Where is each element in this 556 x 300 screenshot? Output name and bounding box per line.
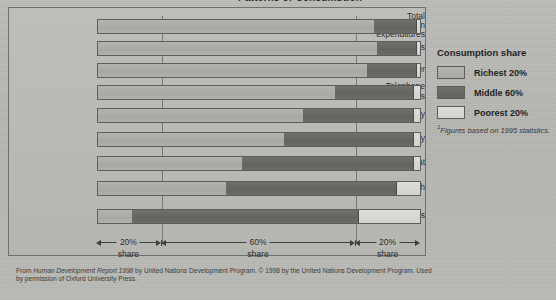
footnote: 1Figures based on 1995 statistics. xyxy=(437,123,555,135)
legend-item-label: Richest 20% xyxy=(474,68,527,78)
middle-segment xyxy=(336,86,413,99)
axis-span-share-label: share xyxy=(96,249,161,259)
stacked-bar xyxy=(97,108,421,123)
source-report-title: Human Development Report 1998 xyxy=(33,267,133,274)
axis-span-percent: 60% xyxy=(246,238,269,247)
figure-page: Patterns of Consumption Totalconsumption… xyxy=(0,0,556,300)
axis-span: 20% xyxy=(355,237,420,248)
poorest-segment xyxy=(359,210,420,223)
stacked-bar xyxy=(97,41,421,56)
legend-swatch-richest xyxy=(437,66,465,79)
stacked-bar xyxy=(97,19,421,34)
legend-item: Richest 20% xyxy=(437,66,552,79)
axis-span: 20% xyxy=(96,237,161,248)
middle-segment xyxy=(133,210,358,223)
middle-segment xyxy=(378,42,417,55)
axis-annotations: 20%share60%share20%share xyxy=(8,237,426,263)
axis-span: 60% xyxy=(161,237,355,248)
stacked-bar xyxy=(97,181,421,196)
axis-span-share-label: share xyxy=(355,249,420,259)
poorest-segment xyxy=(417,42,420,55)
source-citation: From Human Development Report 1998 by Un… xyxy=(16,267,436,284)
legend-swatch-middle xyxy=(437,86,465,99)
middle-segment xyxy=(375,20,417,33)
richest-segment xyxy=(98,109,304,122)
poorest-segment xyxy=(414,157,420,170)
stacked-bar xyxy=(97,209,421,224)
source-prefix: From xyxy=(16,267,33,274)
legend-items: Richest 20%Middle 60%Poorest 20% xyxy=(437,66,552,119)
middle-segment xyxy=(227,182,398,195)
stacked-bar xyxy=(97,85,421,100)
footnote-text: Figures based on 1995 statistics. xyxy=(440,126,550,135)
legend-swatch-poorest xyxy=(437,106,465,119)
middle-segment xyxy=(243,157,414,170)
source-line2: of Oxford University Press. xyxy=(59,275,137,282)
poorest-segment xyxy=(414,109,420,122)
middle-segment xyxy=(285,133,414,146)
axis-span-share-label: share xyxy=(161,249,355,259)
richest-segment xyxy=(98,182,227,195)
figure-title: Patterns of Consumption xyxy=(150,0,450,1)
poorest-segment xyxy=(397,182,420,195)
richest-segment xyxy=(98,157,243,170)
axis-arrow-left-icon xyxy=(96,240,101,246)
chart-plot-frame: TotalconsumptionexpendituresCarsPaperTel… xyxy=(8,7,426,256)
axis-tick xyxy=(161,240,162,246)
richest-segment xyxy=(98,133,285,146)
poorest-segment xyxy=(414,133,420,146)
richest-segment xyxy=(98,64,368,77)
middle-segment xyxy=(304,109,413,122)
axis-span-percent: 20% xyxy=(376,238,399,247)
legend-item: Poorest 20% xyxy=(437,106,552,119)
poorest-segment xyxy=(417,20,420,33)
richest-segment xyxy=(98,210,133,223)
legend-item: Middle 60% xyxy=(437,86,552,99)
richest-segment xyxy=(98,42,378,55)
richest-segment xyxy=(98,86,336,99)
legend: Consumption share Richest 20%Middle 60%P… xyxy=(437,47,552,126)
axis-tick xyxy=(355,240,356,246)
axis-arrow-right-icon xyxy=(415,240,420,246)
poorest-segment xyxy=(414,86,420,99)
legend-item-label: Poorest 20% xyxy=(474,108,528,118)
richest-segment xyxy=(98,20,375,33)
middle-segment xyxy=(368,64,416,77)
poorest-segment xyxy=(417,64,420,77)
stacked-bar xyxy=(97,132,421,147)
legend-title: Consumption share xyxy=(437,47,552,58)
axis-span-percent: 20% xyxy=(117,238,140,247)
legend-item-label: Middle 60% xyxy=(474,88,523,98)
stacked-bar xyxy=(97,63,421,78)
stacked-bar xyxy=(97,156,421,171)
